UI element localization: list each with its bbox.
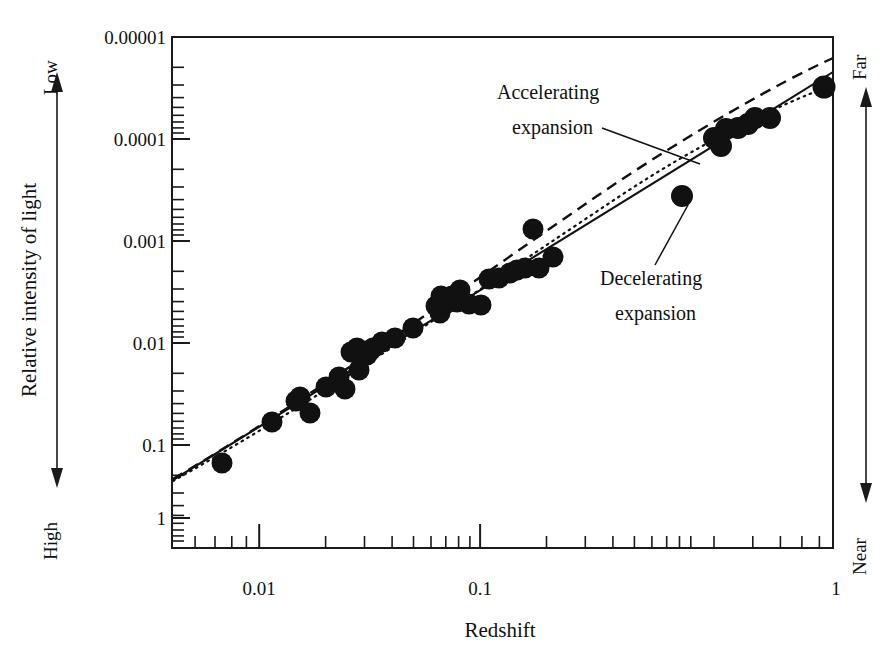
y-axis-ticks (172, 37, 190, 541)
data-point (262, 412, 283, 433)
x-tick-label: 0.01 (243, 578, 276, 599)
x-tick-label: 1 (831, 578, 841, 599)
data-point (403, 318, 424, 339)
annotation-accelerating-expansion: Accelerating expansion (497, 81, 700, 164)
data-point (212, 453, 233, 474)
x-tick-label: 0.1 (468, 578, 492, 599)
right-axis-bottom-end-label: Near (849, 537, 870, 575)
data-point (335, 379, 356, 400)
y-axis-top-end-label: Low (40, 60, 61, 95)
annotation-decelerating-line2: expansion (615, 302, 696, 325)
data-point (385, 328, 406, 349)
y-tick-label: 0.0001 (114, 129, 166, 150)
annotation-accelerating-line1: Accelerating (497, 81, 599, 104)
y-tick-label: 0.001 (123, 231, 166, 252)
x-axis-ticks (195, 524, 833, 548)
chart-canvas: 0.00001 0.0001 0.001 0.01 0.1 1 (0, 0, 895, 660)
right-axis-top-end-label: Far (849, 54, 870, 80)
y-axis-title: Relative intensity of light (17, 183, 41, 397)
annotation-decelerating-expansion: Decelerating expansion (600, 205, 702, 325)
arrow-down-icon (51, 468, 63, 488)
y-axis-tick-labels: 0.00001 0.0001 0.001 0.01 0.1 1 (104, 27, 166, 529)
x-axis-tick-labels: 0.01 0.1 1 (243, 578, 841, 599)
y-tick-label: 1 (157, 508, 167, 529)
y-tick-label: 0.00001 (104, 27, 166, 48)
data-point (523, 219, 544, 240)
left-axis-direction-indicator (51, 72, 63, 488)
data-point (759, 107, 781, 129)
data-point (300, 403, 321, 424)
right-axis-direction-indicator (860, 87, 872, 503)
x-axis-title: Redshift (464, 618, 535, 642)
annotation-accelerating-leader (602, 128, 700, 164)
data-point (543, 247, 564, 268)
arrow-down-icon (860, 483, 872, 503)
arrow-up-icon (860, 87, 872, 107)
supernova-redshift-figure: 0.00001 0.0001 0.001 0.01 0.1 1 (0, 0, 895, 660)
data-point (813, 76, 836, 99)
y-tick-label: 0.01 (133, 333, 166, 354)
y-axis-bottom-end-label: High (40, 522, 61, 561)
y-tick-label: 0.1 (142, 435, 166, 456)
annotation-accelerating-line2: expansion (512, 116, 593, 139)
data-point (671, 185, 693, 207)
plot-frame (172, 37, 833, 548)
annotation-decelerating-line1: Decelerating (600, 267, 702, 290)
annotation-decelerating-leader (655, 205, 688, 265)
data-point (471, 295, 492, 316)
